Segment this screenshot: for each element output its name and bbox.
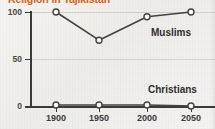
- data-point: [96, 37, 102, 43]
- data-point: [188, 103, 194, 109]
- series-label-christians: Christians: [148, 84, 197, 95]
- data-point: [144, 14, 150, 20]
- data-point: [53, 102, 59, 108]
- chart-title: Religion in Tajikistan: [8, 0, 110, 5]
- data-point: [96, 102, 102, 108]
- series-label-muslims: Muslims: [151, 27, 191, 38]
- data-point: [53, 9, 59, 15]
- series-line-christians: [56, 105, 191, 106]
- data-point: [188, 9, 194, 15]
- data-point: [144, 102, 150, 108]
- series-svg: [0, 0, 215, 129]
- chart-screenshot: Religion in Tajikistan 100 50 0 1900 195…: [0, 0, 215, 129]
- plot-area: 100 50 0 1900 1950 2000 2050 Muslims Chr…: [0, 0, 215, 129]
